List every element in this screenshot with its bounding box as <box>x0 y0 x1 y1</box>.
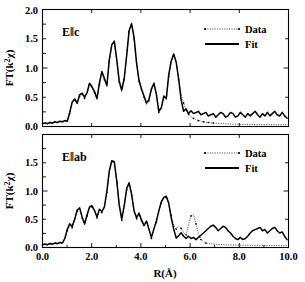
ylabel-bottom-base: FT(k <box>3 185 16 210</box>
xtick-4: 8.0 <box>233 251 246 262</box>
panel-bottom-ytick-3: 1.5 <box>25 157 38 168</box>
exafs-figure: 0.0 0.5 1.0 1.5 2.0 E‖c <box>0 0 305 282</box>
legend-data-marker-right-bottom <box>238 152 240 154</box>
panel-top-data-markers <box>69 31 214 124</box>
panel-bottom: 0.0 0.5 1.0 1.5 E‖ab <box>25 135 289 254</box>
ylabel-top-base: FT(k <box>3 62 16 87</box>
panel-top: 0.0 0.5 1.0 1.5 2.0 E‖c <box>25 5 289 133</box>
figure-canvas: 0.0 0.5 1.0 1.5 2.0 E‖c <box>0 0 305 282</box>
x-tick-labels: 0.0 2.0 4.0 6.0 8.0 10.0 <box>36 251 298 262</box>
panel-bottom-data-markers <box>66 161 206 244</box>
ylabel-bottom-chi: χ) <box>3 172 16 182</box>
legend-label-fit-bottom: Fit <box>245 163 258 174</box>
panel-bottom-ytick-1: 0.5 <box>25 214 38 225</box>
panel-top-ytick-0: 0.0 <box>25 121 38 132</box>
legend-label-data-bottom: Data <box>245 148 267 159</box>
legend-data-marker-right-top <box>238 28 240 30</box>
panel-top-ytick-2: 1.0 <box>25 63 38 74</box>
xtick-3: 6.0 <box>184 251 197 262</box>
legend-label-fit-top: Fit <box>245 39 258 50</box>
xtick-2: 4.0 <box>134 251 147 262</box>
xtick-0: 0.0 <box>36 251 49 262</box>
panel-top-ytick-4: 2.0 <box>25 5 38 16</box>
ylabel-top-chi: χ) <box>3 49 16 59</box>
panel-top-ytick-1: 0.5 <box>25 92 38 103</box>
svg-text:FT(k2χ): FT(k2χ) <box>3 172 17 209</box>
x-axis-label: R(Å) <box>153 267 177 280</box>
panel-top-ytick-3: 1.5 <box>25 33 38 44</box>
panel-bottom-legend: Data Fit <box>204 148 267 174</box>
panel-bottom-ytick-2: 1.0 <box>25 186 38 197</box>
svg-text:FT(k2χ): FT(k2χ) <box>3 49 17 86</box>
xtick-1: 2.0 <box>85 251 98 262</box>
legend-label-data-top: Data <box>245 24 267 35</box>
legend-data-marker-left-top <box>204 28 206 30</box>
panel-top-ylabel: FT(k2χ) <box>3 49 17 86</box>
panel-bottom-ylabel: FT(k2χ) <box>3 172 17 209</box>
panel-top-annotation: E‖c <box>62 25 80 39</box>
legend-data-marker-left-bottom <box>204 152 206 154</box>
panel-top-legend: Data Fit <box>204 24 267 50</box>
xtick-5: 10.0 <box>279 251 297 262</box>
panel-bottom-annotation: E‖ab <box>62 150 87 164</box>
